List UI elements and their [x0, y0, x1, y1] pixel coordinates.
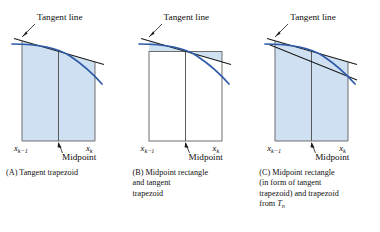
x-left-label: xk−1 — [141, 143, 155, 153]
midpoint-leader-arrowhead — [57, 142, 61, 148]
x-left-label: xk−1 — [267, 143, 281, 153]
panel-a-caption-tag: (A) — [6, 168, 17, 177]
panel-a-caption-text: Tangent trapezoid — [19, 168, 78, 177]
x-left-subscript: k−1 — [271, 147, 281, 154]
tangent-line-label: Tangent line — [290, 12, 336, 22]
midpoint-label: Midpoint — [189, 152, 223, 162]
panel-c-caption: (C) Midpoint rectangle (in form of tange… — [259, 168, 380, 209]
figure-tangent-trapezoid: Tangent line xk−1 xk Midpoint (A) Tangen… — [0, 0, 380, 232]
panel-c-caption-tag: (C) — [259, 168, 270, 177]
x-left-subscript: k−1 — [18, 147, 28, 154]
panel-c-caption-text: Midpoint rectangle (in form of tangent t… — [259, 168, 339, 208]
x-left-label: xk−1 — [14, 143, 28, 153]
panel-c: Tangent line xk−1 xk Midpoint (C) Midpoi… — [253, 0, 380, 232]
midpoint-leader-arrowhead — [311, 142, 315, 148]
tangent-line-label: Tangent line — [37, 12, 83, 22]
midpoint-label: Midpoint — [62, 152, 96, 162]
panel-b-caption-tag: (B) — [133, 168, 144, 177]
midpoint-label: Midpoint — [315, 152, 349, 162]
panel-b: Tangent line xk−1 xk Midpoint (B) Midpoi… — [127, 0, 254, 232]
midpoint-leader-arrowhead — [184, 142, 188, 148]
panel-c-caption-math-subscript: n — [282, 202, 285, 209]
panel-a: Tangent line xk−1 xk Midpoint (A) Tangen… — [0, 0, 127, 232]
panel-row: Tangent line xk−1 xk Midpoint (A) Tangen… — [0, 0, 380, 232]
x-left-subscript: k−1 — [144, 147, 154, 154]
panel-a-caption: (A) Tangent trapezoid — [6, 168, 128, 178]
tangent-line-label: Tangent line — [164, 12, 210, 22]
panel-b-caption: (B) Midpoint rectangle and tangent trape… — [133, 168, 255, 199]
panel-b-caption-text: Midpoint rectangle and tangent trapezoid — [133, 168, 209, 198]
